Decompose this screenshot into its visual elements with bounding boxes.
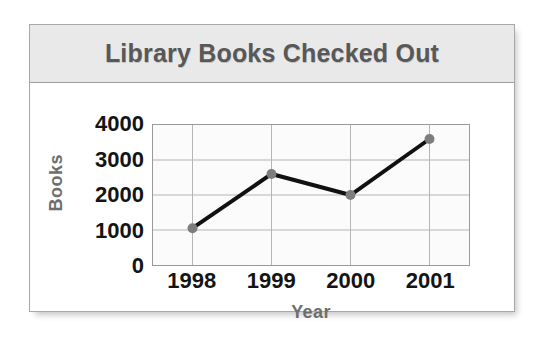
horizontal-gridlines [153,160,469,230]
y-tick-label: 0 [132,255,144,277]
page-title: Library Books Checked Out [105,39,439,68]
y-tick-label: 1000 [95,220,144,242]
plot-area [152,124,470,266]
data-line-series [193,139,430,228]
x-tick-label: 2001 [406,270,455,292]
x-tick-label: 2000 [326,270,375,292]
x-tick-label: 1999 [247,270,296,292]
x-axis-tick-labels: 1998 1999 2000 2001 [152,270,470,300]
data-point-marker [346,190,356,200]
data-point-marker [267,169,277,179]
y-tick-label: 4000 [95,113,144,135]
line-chart-svg [153,125,469,265]
chart-title-band: Library Books Checked Out [30,25,514,83]
data-point-marker [188,223,198,233]
x-axis-title: Year [152,302,470,323]
chart-body: Books 4000 3000 2000 1000 0 1998 1999 20… [30,84,514,311]
y-tick-label: 3000 [95,149,144,171]
chart-figure: Library Books Checked Out Books 4000 300… [29,24,515,312]
y-tick-label: 2000 [95,184,144,206]
y-axis-title: Books [46,154,68,212]
data-point-marker [425,134,435,144]
y-axis-tick-labels: 4000 3000 2000 1000 0 [68,124,150,266]
x-tick-label: 1998 [167,270,216,292]
